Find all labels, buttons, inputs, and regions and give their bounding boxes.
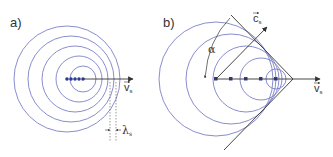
- panel-a-source-positions: [65, 77, 85, 81]
- velocity-label: vs: [124, 81, 133, 94]
- doppler-mach-diagram: a) vs λs b): [0, 0, 333, 157]
- mach-cone-lower: [224, 79, 293, 150]
- panel-b: b) vs cs α: [159, 12, 323, 150]
- panel-a-label: a): [10, 15, 22, 30]
- wavelength-markers: [110, 82, 116, 142]
- source-dot: [65, 77, 69, 81]
- wavelength-label: λs: [122, 124, 132, 137]
- sound-velocity-label: cs: [253, 12, 262, 25]
- panel-a: a) vs λs: [10, 15, 133, 142]
- source-dot: [69, 77, 73, 81]
- velocity-label: vs: [314, 82, 323, 95]
- source-dot: [77, 77, 81, 81]
- panel-b-label: b): [163, 15, 175, 30]
- mach-cone-upper: [231, 15, 293, 79]
- source-dot: [73, 77, 77, 81]
- angle-label: α: [208, 43, 216, 56]
